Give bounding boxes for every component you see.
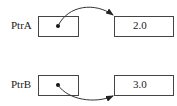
pointer-b-arrow (58, 85, 113, 100)
value-a-label: 2.0 (133, 19, 147, 31)
pointer-b-label: PtrB (11, 78, 31, 90)
pointer-a-group (39, 7, 174, 36)
diagram-canvas (0, 0, 177, 106)
value-b-label: 3.0 (133, 78, 147, 90)
pointer-b-group (39, 76, 174, 101)
pointer-a-label: PtrA (11, 19, 32, 31)
